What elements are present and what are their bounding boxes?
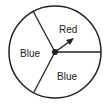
section-label-blue-bottom: Blue <box>57 71 77 82</box>
spinner-diagram: Red Blue Blue <box>0 0 105 107</box>
spinner-pivot <box>52 49 58 55</box>
section-label-blue-left: Blue <box>20 48 40 59</box>
section-label-red: Red <box>59 24 77 35</box>
